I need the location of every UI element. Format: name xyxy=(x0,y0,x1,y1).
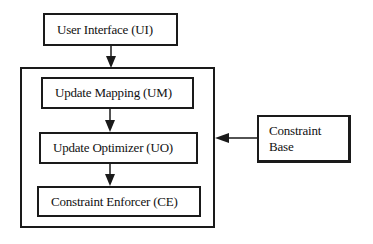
user-interface-box: User Interface (UI) xyxy=(43,13,178,46)
constraint-base-label-line2: Base xyxy=(269,139,293,154)
update-mapping-label: Update Mapping (UM) xyxy=(55,86,172,100)
constraint-enforcer-label: Constraint Enforcer (CE) xyxy=(51,195,178,209)
update-optimizer-box: Update Optimizer (UO) xyxy=(39,132,198,164)
arrow-cb-to-container xyxy=(215,133,257,143)
update-optimizer-label: Update Optimizer (UO) xyxy=(53,141,173,155)
update-mapping-box: Update Mapping (UM) xyxy=(41,77,194,109)
arrow-ui-to-container xyxy=(106,46,116,68)
constraint-base-box: Constraint Base xyxy=(257,115,351,163)
constraint-base-label: Constraint Base xyxy=(269,123,339,155)
constraint-base-label-line1: Constraint xyxy=(269,123,321,138)
user-interface-label: User Interface (UI) xyxy=(57,23,153,37)
constraint-enforcer-box: Constraint Enforcer (CE) xyxy=(37,186,201,217)
